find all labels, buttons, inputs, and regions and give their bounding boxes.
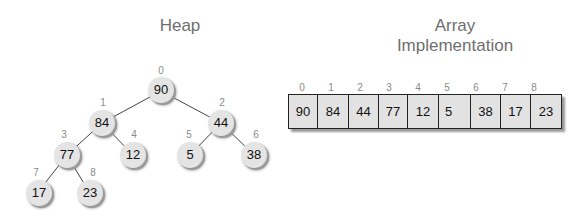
array-index-3: 3 bbox=[381, 82, 397, 93]
array-index-0: 0 bbox=[294, 82, 310, 93]
array-cell-8: 23 bbox=[531, 95, 561, 128]
heap-index-8: 8 bbox=[85, 167, 101, 178]
array-index-6: 6 bbox=[468, 82, 484, 93]
array-index-1: 1 bbox=[323, 82, 339, 93]
heap-node-7: 17 bbox=[26, 180, 52, 206]
array-index-4: 4 bbox=[410, 82, 426, 93]
array-cell-0: 90 bbox=[289, 95, 318, 128]
heap-index-0: 0 bbox=[153, 65, 169, 76]
array-index-5: 5 bbox=[439, 82, 455, 93]
heap-node-3: 77 bbox=[54, 142, 80, 168]
heap-node-1: 84 bbox=[89, 110, 115, 136]
array-cell-1: 84 bbox=[318, 95, 349, 128]
array-index-2: 2 bbox=[352, 82, 368, 93]
heap-node-8: 23 bbox=[77, 180, 103, 206]
heap-index-3: 3 bbox=[56, 129, 72, 140]
heap-index-4: 4 bbox=[126, 129, 142, 140]
heap-node-0: 90 bbox=[148, 77, 174, 103]
heap-node-2: 44 bbox=[208, 110, 234, 136]
heap-index-6: 6 bbox=[248, 129, 264, 140]
heap-index-5: 5 bbox=[181, 129, 197, 140]
heap-index-7: 7 bbox=[28, 167, 44, 178]
array-cell-4: 12 bbox=[408, 95, 439, 128]
heap-node-5: 5 bbox=[177, 142, 203, 168]
array-row: 90 84 44 77 12 5 38 17 23 bbox=[288, 94, 562, 129]
array-cell-2: 44 bbox=[349, 95, 379, 128]
array-index-8: 8 bbox=[526, 82, 542, 93]
array-cell-6: 38 bbox=[471, 95, 501, 128]
heap-node-6: 38 bbox=[241, 142, 267, 168]
array-index-7: 7 bbox=[497, 82, 513, 93]
heap-node-4: 12 bbox=[120, 142, 146, 168]
heap-index-1: 1 bbox=[95, 97, 111, 108]
array-cell-3: 77 bbox=[379, 95, 408, 128]
array-cell-7: 17 bbox=[501, 95, 531, 128]
heap-index-2: 2 bbox=[214, 97, 230, 108]
array-cell-5: 5 bbox=[439, 95, 471, 128]
